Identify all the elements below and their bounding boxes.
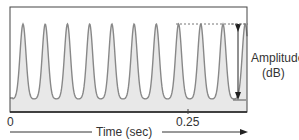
waveform-diagram: [0, 0, 299, 140]
x-origin-label: 0: [7, 116, 14, 128]
amplitude-label-line2: (dB): [262, 67, 285, 79]
x-axis-label: Time (sec): [96, 126, 152, 138]
x-tick-label: 0.25: [176, 116, 199, 128]
amplitude-label-line1: Amplitude: [251, 52, 299, 64]
